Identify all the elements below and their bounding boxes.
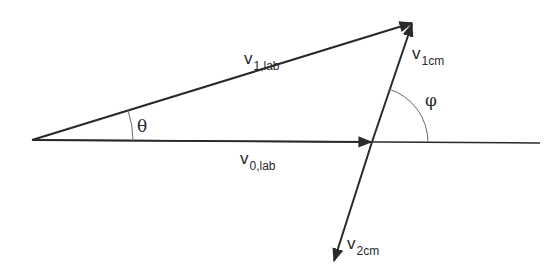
label-v2cm: v2cm (347, 235, 378, 252)
diagram-graphics (0, 0, 553, 275)
vector-v0-lab (32, 140, 371, 142)
label-phi: φ (425, 92, 437, 109)
phi-arc (389, 89, 428, 142)
label-v1cm-main: v (412, 44, 421, 63)
label-v2cm-main: v (347, 234, 356, 253)
label-theta: θ (137, 118, 147, 135)
label-v1-lab-subscript: 1,lab (254, 59, 280, 73)
label-v1-lab: v1,lab (244, 50, 279, 67)
label-v2cm-subscript: 2cm (357, 244, 380, 258)
label-v0-lab: v0,lab (240, 150, 275, 167)
label-v1-lab-main: v (244, 49, 253, 68)
label-v1cm: v1cm (412, 45, 443, 62)
vector-v1cm (372, 24, 412, 142)
label-v1cm-subscript: 1cm (422, 54, 445, 68)
theta-arc (128, 110, 133, 141)
collision-vector-diagram: v1,lab v0,lab v1cm v2cm θ φ (0, 0, 553, 275)
label-v0-lab-subscript: 0,lab (250, 159, 276, 173)
label-v0-lab-main: v (240, 149, 249, 168)
vector-v1-lab (32, 23, 412, 140)
